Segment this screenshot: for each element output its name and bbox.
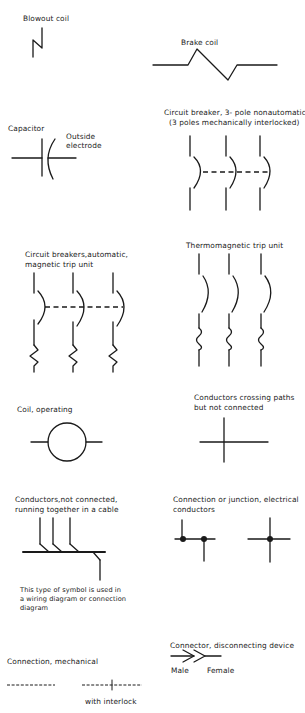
thermomagnetic-trip-unit-icon	[197, 254, 271, 366]
circuit-breaker-automatic-icon	[30, 273, 124, 372]
conductors-crossing-icon	[200, 418, 268, 462]
mechanical-connection-icon	[7, 680, 142, 690]
connector-disconnecting-icon	[171, 650, 221, 662]
coil-operating-icon	[31, 423, 102, 461]
circuit-breaker-nonautomatic-icon	[190, 136, 271, 210]
capacitor-icon	[12, 139, 76, 179]
junction-icon	[175, 518, 290, 562]
brake-coil-icon	[153, 49, 277, 80]
cable-conductors-icon	[23, 518, 105, 580]
blowout-coil-icon	[33, 28, 42, 57]
symbols-canvas	[0, 0, 305, 713]
